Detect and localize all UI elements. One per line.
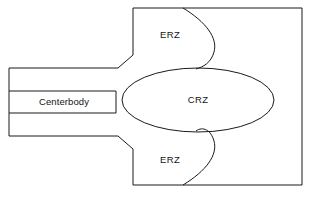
erz-upper-label: ERZ: [160, 29, 180, 40]
lower-shear-layer-curve: [183, 129, 215, 185]
centerbody-label: Centerbody: [39, 96, 89, 107]
upper-expansion-diagonal: [118, 55, 133, 68]
diagram-canvas: ERZ CRZ ERZ Centerbody: [0, 0, 311, 197]
lower-expansion-diagonal: [118, 136, 133, 149]
combustor-diagram: ERZ CRZ ERZ Centerbody: [0, 0, 311, 197]
erz-lower-label: ERZ: [160, 154, 180, 165]
upper-shear-layer-curve: [183, 8, 215, 69]
crz-label: CRZ: [188, 94, 209, 105]
